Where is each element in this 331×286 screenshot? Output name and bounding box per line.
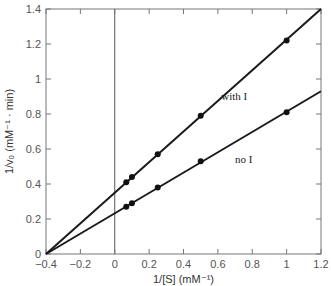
y-tick-label: 0.6 [26, 143, 41, 155]
x-tick-label: 0.4 [176, 258, 191, 270]
y-tick-label: 0.2 [26, 213, 41, 225]
data-point [198, 113, 204, 119]
series-annotation: no I [235, 153, 253, 165]
x-tick-label: −0.2 [70, 258, 92, 270]
series-line [46, 9, 321, 254]
data-point [123, 204, 129, 210]
y-tick-label: 0 [35, 248, 41, 260]
x-tick-label: 0.8 [245, 258, 260, 270]
x-tick-label: 0.2 [141, 258, 156, 270]
data-point [155, 185, 161, 191]
y-tick-label: 1.2 [26, 38, 41, 50]
y-tick-label: 0.8 [26, 108, 41, 120]
series-annotation: with I [221, 90, 247, 102]
data-point [198, 158, 204, 164]
y-tick-label: 1 [35, 73, 41, 85]
x-tick-label: 0.6 [210, 258, 225, 270]
y-axis-label: 1/v₀ (mM⁻¹ · min) [3, 89, 15, 174]
data-point [284, 38, 290, 44]
series-line [46, 91, 321, 254]
lineweaver-burk-plot: −0.4−0.200.20.40.60.811.200.20.40.60.811… [0, 0, 331, 286]
data-point [284, 109, 290, 115]
data-point [129, 200, 135, 206]
x-tick-label: 1 [284, 258, 290, 270]
y-tick-label: 1.4 [26, 3, 41, 15]
x-axis-label: 1/[S] (mM⁻¹) [153, 273, 214, 285]
x-tick-label: 0 [112, 258, 118, 270]
x-tick-label: 1.2 [313, 258, 328, 270]
data-point [155, 151, 161, 157]
data-point [123, 179, 129, 185]
data-point [129, 174, 135, 180]
y-tick-label: 0.4 [26, 178, 41, 190]
